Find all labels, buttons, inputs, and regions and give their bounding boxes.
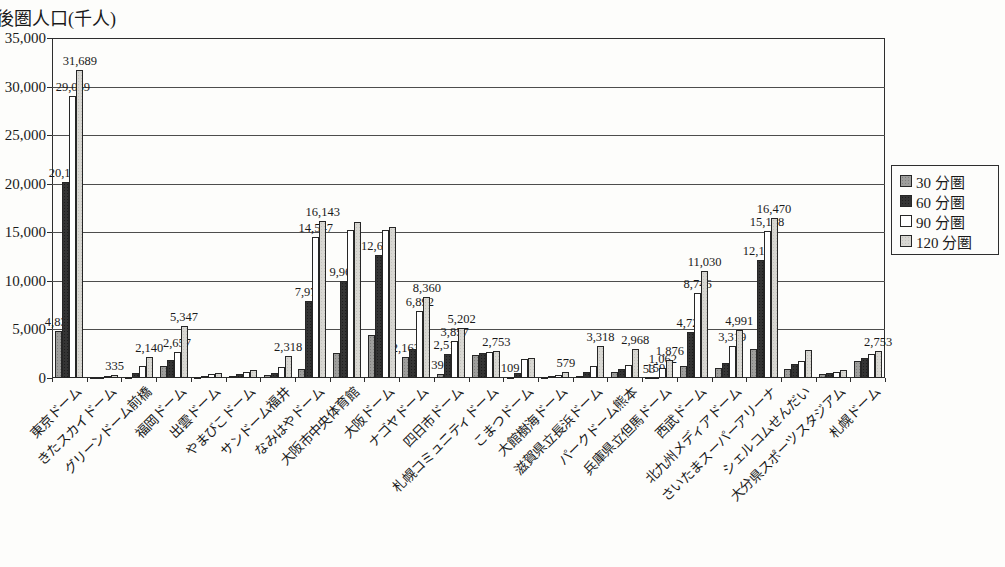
bar [437, 374, 444, 378]
gridline [52, 135, 885, 136]
x-axis-tick-mark [191, 378, 192, 382]
bar [479, 353, 486, 378]
bar [368, 335, 375, 378]
bar [312, 237, 319, 378]
legend-label: 90 分圏 [916, 211, 965, 232]
bar [861, 358, 868, 378]
data-label: 8,360 [413, 282, 441, 295]
x-axis-tick-mark [850, 378, 851, 382]
bar [382, 230, 389, 378]
bar [528, 358, 535, 378]
bar [229, 376, 236, 378]
bar [694, 293, 701, 378]
bar [791, 364, 798, 378]
x-axis-tick-mark [746, 378, 747, 382]
bar [819, 374, 826, 378]
x-axis-tick-mark [469, 378, 470, 382]
x-axis-tick-mark [121, 378, 122, 382]
bar [493, 351, 500, 378]
gridline [52, 87, 885, 88]
legend-label: 60 分圏 [916, 191, 965, 212]
bar [444, 354, 451, 379]
bar [701, 271, 708, 378]
bar [659, 368, 666, 378]
bar [868, 354, 875, 378]
bar [340, 281, 347, 378]
legend-label: 30 分圏 [916, 171, 965, 192]
bar [784, 369, 791, 378]
legend-swatch-60分圏 [900, 195, 912, 207]
bar [645, 377, 652, 379]
bar [111, 375, 118, 378]
bar [215, 373, 222, 378]
bar [250, 370, 257, 378]
bar [521, 359, 528, 378]
x-axis-tick-mark [677, 378, 678, 382]
bar [451, 341, 458, 379]
chart-title: 後圏人口(千人) [0, 4, 116, 30]
legend-item: 120 分圏 [900, 231, 998, 251]
bar [104, 376, 111, 378]
bar [305, 301, 312, 378]
bar [55, 331, 62, 378]
bar [375, 255, 382, 378]
bar [181, 326, 188, 378]
bar [805, 350, 812, 378]
bar [590, 366, 597, 378]
bar [632, 349, 639, 378]
bar [486, 352, 493, 378]
bar-chart: 後圏人口(千人) 05,00010,00015,00020,00025,0003… [0, 0, 1005, 567]
data-label: 11,030 [688, 256, 722, 269]
bar [90, 377, 97, 379]
y-axis-tick-label: 35,000 [0, 30, 46, 47]
data-label: 2,968 [621, 334, 649, 347]
bar [139, 366, 146, 378]
legend-swatch-90分圏 [900, 215, 912, 227]
x-axis-tick-mark [573, 378, 574, 382]
bar [389, 227, 396, 378]
bar [285, 356, 292, 379]
bar [840, 370, 847, 378]
bar [208, 374, 215, 378]
bar [576, 376, 583, 378]
x-axis-tick-mark [503, 378, 504, 382]
bar [541, 377, 548, 379]
data-label: 2,753 [864, 336, 892, 349]
bar [271, 373, 278, 378]
bar [833, 372, 840, 378]
data-label: 2,753 [482, 336, 510, 349]
bar [611, 372, 618, 378]
y-axis-tick-label: 30,000 [0, 79, 46, 96]
x-axis-tick-mark [226, 378, 227, 382]
bar [354, 222, 361, 378]
x-axis-tick-mark [87, 378, 88, 382]
bar [132, 373, 139, 378]
x-axis-tick-mark [260, 378, 261, 382]
bar [722, 363, 729, 378]
bar [174, 352, 181, 378]
x-axis-tick-mark [642, 378, 643, 382]
x-axis-tick-mark [399, 378, 400, 382]
bar [736, 330, 743, 379]
bar [62, 182, 69, 378]
bar [333, 353, 340, 378]
bar [416, 311, 423, 378]
bar [514, 373, 521, 378]
legend-label: 120 分圏 [916, 231, 972, 252]
bar [798, 361, 805, 378]
legend-item: 60 分圏 [900, 191, 998, 211]
y-axis-tick-label: 20,000 [0, 176, 46, 193]
x-axis-tick-mark [364, 378, 365, 382]
bar [97, 377, 104, 379]
bar [423, 297, 430, 378]
y-axis-tick-label: 10,000 [0, 273, 46, 290]
legend-item: 30 分圏 [900, 171, 998, 191]
data-label: 15,178 [750, 216, 784, 229]
x-axis-tick-mark [330, 378, 331, 382]
bar [854, 361, 861, 378]
bar [160, 366, 167, 378]
y-axis-tick-label: 0 [0, 370, 46, 387]
data-label: 14,547 [299, 222, 333, 235]
bar [764, 231, 771, 378]
data-label: 31,689 [63, 55, 97, 68]
